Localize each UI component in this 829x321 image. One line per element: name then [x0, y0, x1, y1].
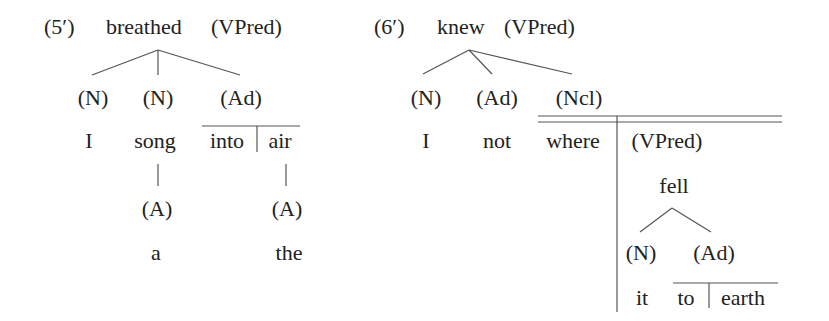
clause-category: (VPred) — [632, 130, 703, 152]
category-label: (A) — [272, 198, 303, 220]
example-number: (6′) — [374, 16, 404, 38]
modifier-word: a — [151, 242, 161, 264]
category-label: (Ad) — [693, 242, 735, 264]
branch-line — [469, 50, 572, 74]
category-label: (Ad) — [220, 87, 262, 109]
clause-introducer: where — [546, 130, 600, 152]
category-label: (Ncl) — [556, 87, 602, 109]
branch-line — [469, 50, 492, 74]
branch-line — [92, 50, 158, 75]
sentence-diagrams: (5′) breathed (VPred) (N) (N) (Ad) I son… — [0, 0, 829, 321]
branch-line — [672, 208, 711, 232]
category-label: (Ad) — [476, 87, 518, 109]
category-label: (N) — [78, 87, 109, 109]
word: I — [422, 130, 429, 152]
clause-verb: fell — [659, 175, 688, 197]
category-label: (A) — [142, 198, 173, 220]
prep-object: air — [268, 130, 291, 152]
word: it — [636, 287, 648, 309]
example-number: (5′) — [44, 16, 74, 38]
word: song — [134, 130, 176, 152]
category-label: (N) — [143, 87, 174, 109]
branch-line — [423, 50, 469, 74]
branch-line — [158, 50, 240, 75]
branch-line — [640, 208, 672, 232]
preposition: into — [210, 130, 244, 152]
prep-object: earth — [721, 287, 765, 309]
category-label: (N) — [411, 87, 442, 109]
category-label: (N) — [626, 242, 657, 264]
root-word: breathed — [106, 16, 182, 38]
root-word: knew — [437, 16, 485, 38]
modifier-word: the — [276, 242, 303, 264]
word: not — [483, 130, 511, 152]
diagram-lines — [0, 0, 829, 321]
root-category: (VPred) — [504, 16, 575, 38]
root-category: (VPred) — [211, 16, 282, 38]
preposition: to — [677, 287, 694, 309]
word: I — [85, 130, 92, 152]
